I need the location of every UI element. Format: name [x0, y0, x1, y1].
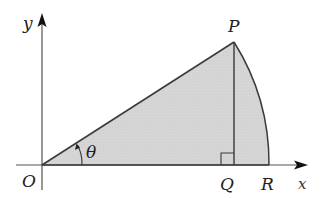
label-P: P	[227, 16, 240, 36]
label-y: y	[22, 13, 33, 33]
label-theta: θ	[86, 142, 96, 162]
label-x-axis: x	[298, 175, 307, 193]
sector-diagram: y x x O P Q R θ	[0, 0, 322, 198]
label-Q: Q	[220, 174, 234, 194]
label-R: R	[260, 174, 274, 194]
label-origin: O	[22, 171, 36, 191]
